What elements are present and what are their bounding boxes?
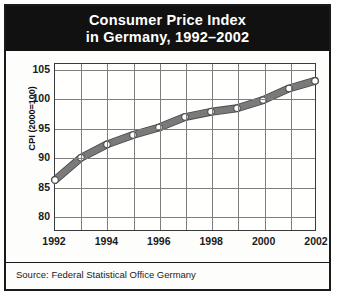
gridline-horizontal	[55, 70, 315, 71]
plot-area	[54, 63, 316, 231]
y-axis-ticks: 80859095100105	[22, 53, 50, 258]
source-note: Source: Federal Statistical Office Germa…	[16, 269, 196, 280]
gridline-horizontal	[55, 99, 315, 100]
chart-title-line-1: Consumer Price Index	[89, 12, 246, 28]
series-line	[55, 81, 315, 180]
gridline-vertical	[212, 64, 213, 230]
x-axis-tick-label: 1994	[95, 235, 118, 247]
data-point-marker	[182, 114, 189, 121]
plot-block: CPI (2000=100) 80859095100105 1992199419…	[6, 53, 329, 258]
source-separator	[6, 262, 329, 263]
gridline-vertical	[81, 64, 82, 230]
data-point-marker	[208, 109, 215, 116]
gridline-vertical	[238, 64, 239, 230]
gridline-vertical	[160, 64, 161, 230]
x-axis-tick-label: 1998	[200, 235, 223, 247]
gridline-horizontal	[55, 188, 315, 189]
x-axis-tick-label: 1992	[42, 235, 65, 247]
x-axis-ticks: 199219941996199820002002	[54, 235, 316, 251]
cpi-line-series	[55, 64, 315, 230]
gridline-vertical	[186, 64, 187, 230]
gridline-horizontal	[55, 158, 315, 159]
chart-figure: Consumer Price Index in Germany, 1992–20…	[0, 0, 342, 303]
x-axis-tick-label: 1996	[147, 235, 170, 247]
chart-title-banner: Consumer Price Index in Germany, 1992–20…	[6, 6, 329, 51]
y-axis-tick-label: 105	[24, 63, 50, 75]
chart-title-line-2: in Germany, 1992–2002	[86, 29, 250, 45]
y-axis-tick-label: 90	[24, 151, 50, 163]
data-point-marker	[312, 78, 319, 85]
gridline-vertical	[107, 64, 108, 230]
y-axis-tick-label: 80	[24, 210, 50, 222]
x-axis-tick-label: 2000	[252, 235, 275, 247]
y-axis-tick-label: 95	[24, 122, 50, 134]
x-axis-tick-label: 2002	[304, 235, 327, 247]
gridline-horizontal	[55, 217, 315, 218]
gridline-vertical	[134, 64, 135, 230]
gridline-horizontal	[55, 129, 315, 130]
y-axis-tick-label: 100	[24, 92, 50, 104]
y-axis-tick-label: 85	[24, 181, 50, 193]
data-point-marker	[52, 177, 59, 184]
gridline-vertical	[265, 64, 266, 230]
gridline-vertical	[291, 64, 292, 230]
